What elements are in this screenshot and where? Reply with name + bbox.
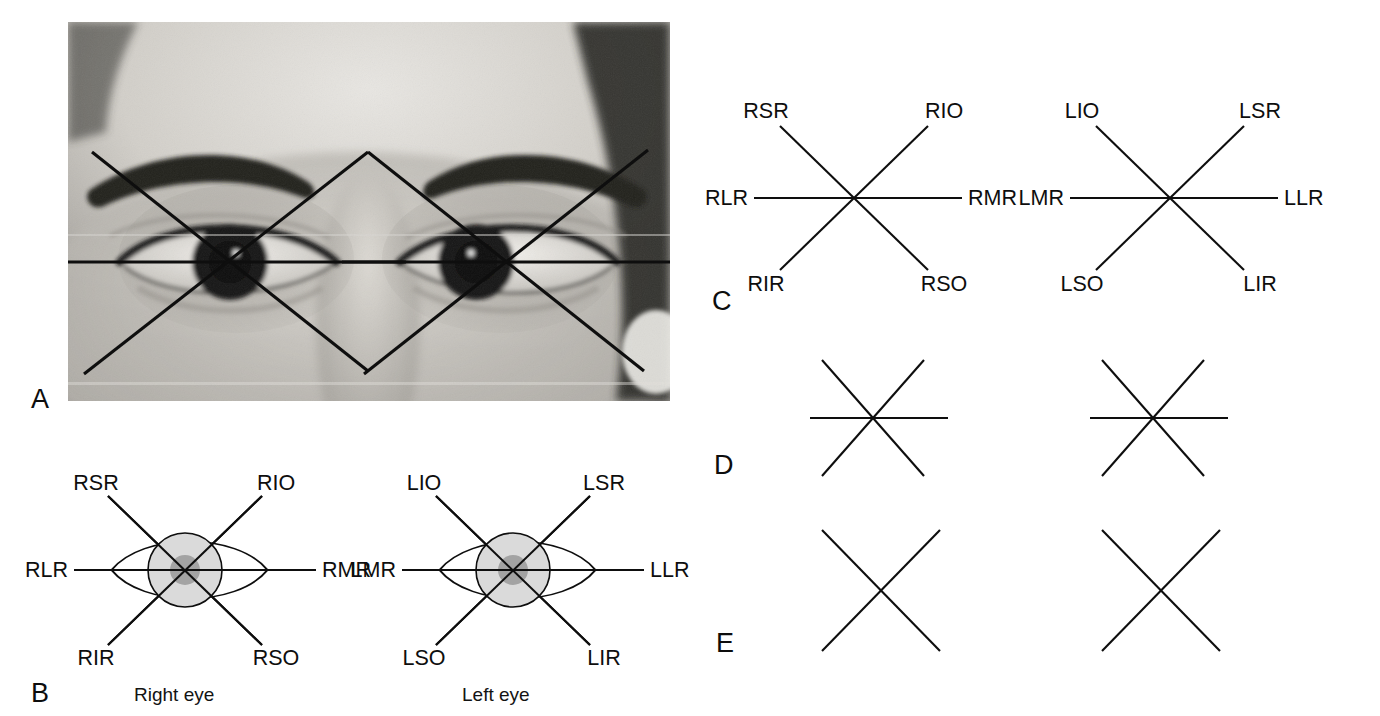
- panel-letter-b: B: [31, 680, 49, 707]
- eye-schematic-right: [74, 496, 316, 645]
- label-rio: RIO: [925, 99, 963, 123]
- panel-c-right-eye-star: RSR RIO RLR RMR RIR RSO: [706, 98, 1006, 298]
- panel-d-right-eye-star: [800, 348, 980, 488]
- label-llr: LLR: [1284, 186, 1323, 210]
- panel-c-left-eye-star: LIO LSR LMR LLR LSO LIR: [1022, 98, 1322, 298]
- label-lsr: LSR: [583, 471, 625, 495]
- panel-letter-a: A: [31, 386, 49, 413]
- label-rso: RSO: [253, 646, 300, 670]
- label-rsr: RSR: [743, 99, 788, 123]
- label-lir: LIR: [1243, 272, 1276, 296]
- face-photograph-image: [68, 22, 670, 401]
- panel-a-photograph: [68, 22, 670, 401]
- label-rlr: RLR: [25, 558, 68, 582]
- label-lmr: LMR: [1019, 186, 1064, 210]
- label-rio: RIO: [257, 471, 295, 495]
- label-lso: LSO: [1060, 272, 1103, 296]
- label-lir: LIR: [587, 646, 620, 670]
- label-lio: LIO: [1065, 99, 1100, 123]
- caption-left-eye: Left eye: [462, 684, 530, 706]
- eye-schematic-left: [402, 496, 644, 645]
- label-rsr: RSR: [73, 471, 118, 495]
- panel-b-right-eye-diagram: RSR RIO RLR RMR RIR RSO: [30, 470, 360, 670]
- caption-right-eye: Right eye: [134, 684, 214, 706]
- label-rmr: RMR: [968, 186, 1017, 210]
- label-rlr: RLR: [705, 186, 748, 210]
- panel-e-right-eye-cross: [800, 518, 980, 663]
- label-lsr: LSR: [1239, 99, 1281, 123]
- label-lso: LSO: [402, 646, 445, 670]
- label-rir: RIR: [747, 272, 784, 296]
- label-llr: LLR: [650, 558, 689, 582]
- panel-letter-e: E: [716, 630, 734, 657]
- label-lmr: LMR: [351, 558, 396, 582]
- figure-root: A RSR RIO RLR RMR RIR RSO: [0, 0, 1380, 716]
- panel-d-left-eye-star: [1080, 348, 1260, 488]
- panel-e-left-eye-cross: [1080, 518, 1260, 663]
- panel-letter-c: C: [712, 288, 732, 315]
- label-rso: RSO: [921, 272, 968, 296]
- label-lio: LIO: [407, 471, 442, 495]
- label-rir: RIR: [77, 646, 114, 670]
- panel-b-left-eye-diagram: LIO LSR LMR LLR LSO LIR: [358, 470, 688, 670]
- panel-letter-d: D: [714, 452, 734, 479]
